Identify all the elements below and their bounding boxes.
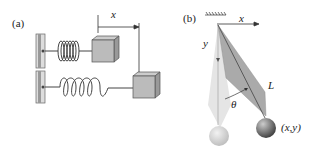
bob-rest xyxy=(209,126,229,146)
block-top xyxy=(92,36,119,62)
x-label-b: x xyxy=(239,12,244,24)
theta-label: θ xyxy=(231,98,236,110)
panel-a-label: (a) xyxy=(12,17,24,29)
ceiling-support xyxy=(205,12,226,15)
point-label: (x,y) xyxy=(281,121,301,133)
spring-compressed xyxy=(45,41,92,61)
bob-swung xyxy=(256,118,276,138)
wall-top xyxy=(36,34,45,68)
diagram-canvas xyxy=(0,0,323,157)
block-bottom xyxy=(133,72,160,98)
length-label: L xyxy=(268,79,274,91)
x-label-a: x xyxy=(111,8,116,20)
y-label: y xyxy=(203,37,208,49)
panel-b-label: (b) xyxy=(183,12,196,24)
spring-stretched xyxy=(45,78,133,96)
x-axis-arrow-b xyxy=(217,22,259,26)
wall-bottom xyxy=(36,71,45,103)
